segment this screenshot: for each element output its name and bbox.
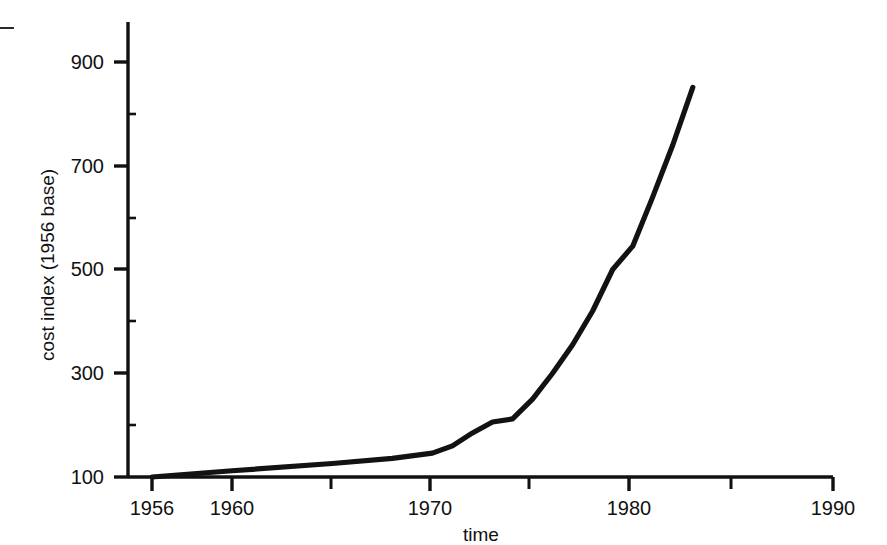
data-series-line — [152, 87, 693, 477]
x-axis-ticks — [152, 477, 833, 491]
y-tick-label-500: 500 — [71, 258, 104, 280]
x-tick-label-1980: 1980 — [607, 497, 652, 519]
chart-figure: 900 700 500 300 100 1956 1960 1970 1980 … — [0, 0, 887, 545]
line-chart: 900 700 500 300 100 1956 1960 1970 1980 … — [0, 0, 887, 545]
x-tick-label-1956: 1956 — [130, 497, 175, 519]
x-tick-label-1960: 1960 — [210, 497, 255, 519]
y-tick-label-900: 900 — [71, 51, 104, 73]
x-axis-title: time — [463, 524, 499, 545]
x-tick-label-1970: 1970 — [408, 497, 453, 519]
y-tick-label-700: 700 — [71, 155, 104, 177]
y-tick-label-100: 100 — [71, 466, 104, 488]
y-tick-label-300: 300 — [71, 362, 104, 384]
x-tick-label-1990: 1990 — [811, 497, 856, 519]
y-axis-title: cost index (1956 base) — [37, 169, 58, 361]
y-axis-major-ticks — [114, 62, 128, 477]
